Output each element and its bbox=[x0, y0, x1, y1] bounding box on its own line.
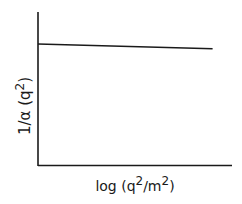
chart: 1/α (q2) log (q2/m2) bbox=[0, 0, 242, 204]
svg-text:1/α (q2): 1/α (q2) bbox=[13, 77, 34, 135]
y-axis-label: 1/α (q2) bbox=[13, 77, 34, 135]
x-axis-label: log (q2/m2) bbox=[95, 174, 174, 194]
svg-text:log (q2/m2): log (q2/m2) bbox=[95, 174, 174, 194]
data-line bbox=[38, 44, 213, 49]
